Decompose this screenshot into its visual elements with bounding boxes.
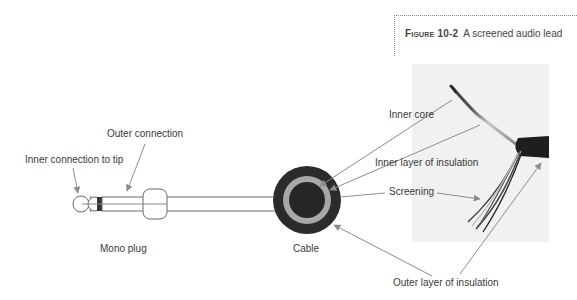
mono-plug (73, 189, 285, 219)
label-inner-insulation: Inner layer of insulation (375, 157, 478, 168)
label-mono-plug: Mono plug (100, 243, 147, 254)
label-outer-connection: Outer connection (107, 128, 183, 139)
label-outer-insulation: Outer layer of insulation (393, 277, 499, 288)
label-inner-connection-to-tip: Inner connection to tip (25, 154, 123, 165)
cable-cross-section (273, 166, 341, 234)
label-screening: Screening (389, 186, 434, 197)
cable-photo (412, 64, 549, 242)
label-inner-core: Inner core (389, 109, 434, 120)
label-cable: Cable (293, 243, 319, 254)
